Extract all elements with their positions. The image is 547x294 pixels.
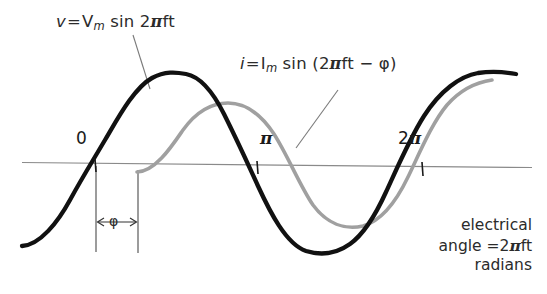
note-line-2: angle =2πft (372, 236, 532, 257)
tick-mark-pi (257, 161, 258, 174)
phase-angle-label: φ (109, 213, 118, 230)
current-eq-phi: φ (379, 54, 390, 73)
current-eq-open-paren: ( (312, 54, 319, 73)
current-curve (137, 80, 492, 227)
note-line-2-b: ft (521, 237, 532, 255)
tick-label-pi-glyph: π (260, 128, 272, 148)
voltage-eq-two: 2 (140, 12, 151, 31)
tick-label-2pi-numeral: 2 (398, 128, 409, 148)
voltage-eq-v: v (56, 12, 66, 31)
electrical-angle-note: electrical angle =2πft radians (372, 216, 532, 276)
voltage-eq-V-subscript: m (94, 19, 105, 33)
note-line-1: electrical (372, 216, 532, 236)
tick-mark-2pi (422, 162, 423, 176)
note-line-3: radians (372, 256, 532, 276)
voltage-equation-label: v=Vm sin 2πft (56, 12, 175, 33)
tick-mark-0 (95, 159, 96, 172)
voltage-eq-ft: ft (162, 12, 174, 31)
current-eq-ft: ft (342, 54, 354, 73)
x-axis-line (22, 163, 532, 168)
tick-label-0: 0 (76, 128, 87, 148)
current-eq-sin: sin (283, 54, 307, 73)
tick-label-2pi-glyph: π (409, 128, 421, 148)
current-eq-two: 2 (319, 54, 330, 73)
current-leader-line (296, 90, 338, 148)
current-eq-pi: π (330, 54, 342, 73)
phase-shift-waveform-figure: v=Vm sin 2πft i=Im sin (2πft − φ) 0 π 2π… (0, 0, 547, 294)
voltage-eq-pi: π (151, 12, 163, 31)
current-eq-I-subscript: m (266, 61, 277, 75)
current-eq-close-paren: ) (390, 54, 397, 73)
current-equation-label: i=Im sin (2πft − φ) (240, 54, 397, 75)
tick-label-pi: π (260, 128, 272, 148)
voltage-eq-sin: sin (110, 12, 134, 31)
note-line-2-a: angle =2 (439, 237, 510, 255)
current-eq-minus: − (359, 54, 373, 73)
note-line-2-pi: π (509, 236, 520, 255)
voltage-eq-V: V (82, 12, 94, 31)
current-eq-equals: = (245, 54, 261, 73)
voltage-eq-equals: = (66, 12, 82, 31)
tick-label-2pi: 2π (398, 128, 421, 148)
